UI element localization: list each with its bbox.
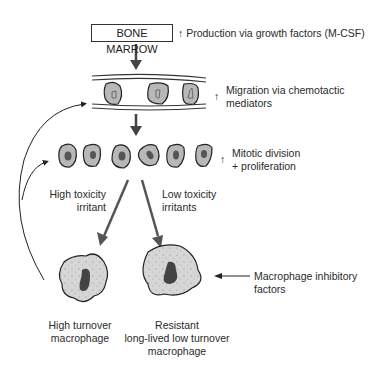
increase-arrow-icon: ↑	[214, 90, 219, 103]
proliferating-cells	[59, 144, 212, 168]
arrow-vessel-to-tissue	[130, 114, 142, 136]
migration-annotation: ↑ Migration via chemotactic mediators	[214, 84, 344, 110]
high-turnover-macrophage	[59, 254, 107, 302]
blood-vessel	[92, 74, 206, 110]
high-toxicity-label: High toxicity irritant	[46, 188, 106, 214]
resistant-macrophage-label: Resistant long-lived low turnover macrop…	[122, 319, 232, 358]
bone-marrow-box: BONE MARROW	[91, 24, 173, 42]
production-annotation: ↑ Production via growth factors (M-CSF)	[178, 27, 365, 40]
diagram-canvas	[0, 0, 382, 370]
monocyte-in-vessel	[148, 83, 169, 104]
increase-arrow-icon: ↑	[220, 153, 225, 166]
arrow-inhibitory-factors	[214, 273, 250, 279]
resistant-macrophage	[143, 245, 201, 295]
mitotic-annotation: ↑ Mitotic division + proliferation	[220, 147, 300, 173]
monocyte-in-vessel	[104, 82, 121, 104]
increase-arrow-icon: ↑	[178, 27, 183, 39]
inhibitory-factors-label: Macrophage inhibitory factors	[254, 270, 357, 296]
monocyte-in-vessel	[183, 84, 199, 105]
high-turnover-label: High turnover macrophage	[40, 319, 120, 345]
arrow-low-toxicity	[142, 180, 163, 248]
low-toxicity-label: Low toxicity irritants	[162, 188, 216, 214]
